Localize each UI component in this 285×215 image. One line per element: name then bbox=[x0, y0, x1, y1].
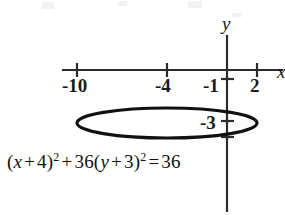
x-tick-label-2: 2 bbox=[250, 76, 260, 95]
graph-figure: -10 -4 -1 2 -3 y x (x+4)2+36(y+3)2=36 bbox=[0, 0, 285, 215]
equation-const-3: 3 bbox=[124, 151, 134, 172]
equation-plus-3: + bbox=[109, 151, 124, 172]
x-tick-label-minus-10: -10 bbox=[62, 76, 87, 95]
equation-coeff-36: 36 bbox=[74, 151, 93, 172]
equation-exponent-1: 2 bbox=[53, 150, 59, 164]
ellipse-curve bbox=[77, 108, 257, 138]
equation-plus-1: + bbox=[22, 151, 37, 172]
equation-caption: (x+4)2+36(y+3)2=36 bbox=[7, 150, 181, 173]
x-tick-label-minus-1: -1 bbox=[203, 76, 219, 95]
equation-const-4: 4 bbox=[37, 151, 47, 172]
coordinate-plane-svg bbox=[0, 0, 285, 215]
y-axis-label: y bbox=[222, 14, 230, 33]
equation-plus-2: + bbox=[60, 151, 75, 172]
equation-rhs-36: 36 bbox=[161, 151, 180, 172]
equation-equals: = bbox=[146, 151, 161, 172]
x-axis-label: x bbox=[277, 62, 285, 81]
equation-var-x: x bbox=[14, 151, 23, 172]
y-tick-label-minus-3: -3 bbox=[200, 113, 216, 132]
y-axis-group bbox=[221, 35, 234, 212]
equation-var-y: y bbox=[100, 151, 109, 172]
x-tick-label-minus-4: -4 bbox=[155, 76, 171, 95]
